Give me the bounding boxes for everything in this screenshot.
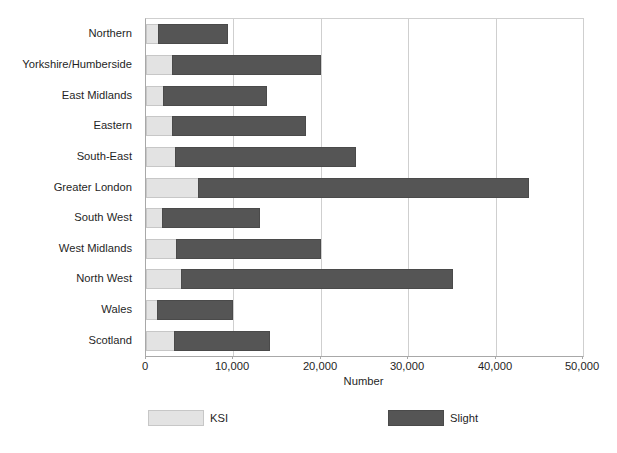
bar-row [146,24,583,44]
legend-label: KSI [210,412,228,424]
stacked-bar-chart: NorthernYorkshire/HumbersideEast Midland… [0,0,617,453]
bar-segment-ksi [146,86,163,106]
x-tick-label: 10,000 [215,360,249,372]
legend-swatch-icon [388,410,444,426]
bar-segment-slight [181,269,453,289]
bar-segment-slight [198,178,528,198]
bar-segment-ksi [146,116,172,136]
gridline-50000 [583,19,584,356]
x-tick-label: 0 [142,360,148,372]
bar-row [146,55,583,75]
x-tick-mark [320,356,321,359]
x-tick-label: 20,000 [303,360,337,372]
legend-swatch-icon [148,410,204,426]
bar-segment-ksi [146,239,176,259]
legend-label: Slight [450,412,478,424]
bar-row [146,147,583,167]
chart-legend: KSISlight [0,409,617,433]
bar-segment-ksi [146,178,198,198]
bar-segment-slight [175,147,356,167]
bar-row [146,239,583,259]
bar-row [146,116,583,136]
plot-area [145,18,584,357]
bar-segment-slight [163,86,267,106]
bar-row [146,300,583,320]
category-axis-labels: NorthernYorkshire/HumbersideEast Midland… [0,18,139,355]
bar-segment-slight [172,55,321,75]
bar-segment-slight [174,331,270,351]
bar-row [146,331,583,351]
x-tick-label: 50,000 [565,360,599,372]
legend-item-ksi[interactable]: KSI [148,409,228,427]
bar-segment-ksi [146,208,162,228]
x-tick-mark [495,356,496,359]
bar-row [146,86,583,106]
bar-segment-slight [172,116,306,136]
bar-segment-slight [162,208,260,228]
bar-segment-ksi [146,24,158,44]
x-tick-mark [232,356,233,359]
bar-segment-ksi [146,147,175,167]
x-tick-label: 30,000 [390,360,424,372]
x-tick-mark [582,356,583,359]
bar-segment-ksi [146,269,181,289]
bar-segment-ksi [146,331,174,351]
bar-row [146,208,583,228]
bar-segment-slight [158,24,228,44]
bar-segment-ksi [146,55,172,75]
x-tick-mark [407,356,408,359]
x-tick-mark [145,356,146,359]
x-tick-label: 40,000 [478,360,512,372]
bar-row [146,178,583,198]
bar-segment-slight [157,300,232,320]
bar-segment-slight [176,239,321,259]
bar-row [146,269,583,289]
x-axis-title: Number [145,375,582,387]
bar-segment-ksi [146,300,157,320]
legend-item-slight[interactable]: Slight [388,409,478,427]
